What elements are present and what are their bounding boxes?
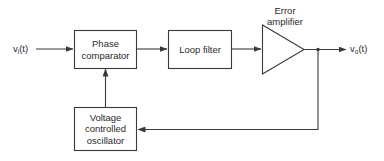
error-amplifier-line1: Error	[258, 5, 312, 16]
vco-label: Voltage controlled oscillator	[75, 108, 136, 150]
vco-line2: controlled	[85, 123, 126, 135]
phase-comparator-label: Phase comparator	[75, 31, 136, 68]
phase-comparator-line2: comparator	[81, 50, 129, 62]
pll-block-diagram: vi(t) Phase comparator Loop filter Error…	[0, 0, 384, 161]
output-signal-suffix: (t)	[358, 43, 367, 54]
error-amplifier-label: Error amplifier	[258, 5, 312, 27]
loop-filter-label: Loop filter	[169, 31, 231, 68]
loop-filter-line1: Loop filter	[179, 44, 221, 56]
input-signal-suffix: (t)	[19, 43, 28, 54]
error-amplifier-line2: amplifier	[258, 16, 312, 27]
vco-line3: oscillator	[87, 135, 125, 147]
phase-comparator-line1: Phase	[92, 38, 119, 50]
error-amplifier-triangle	[263, 25, 305, 74]
output-signal-label: vo(t)	[350, 43, 367, 57]
vco-line1: Voltage	[90, 112, 122, 124]
diagram-canvas	[0, 0, 384, 161]
input-signal-label: vi(t)	[13, 43, 28, 57]
